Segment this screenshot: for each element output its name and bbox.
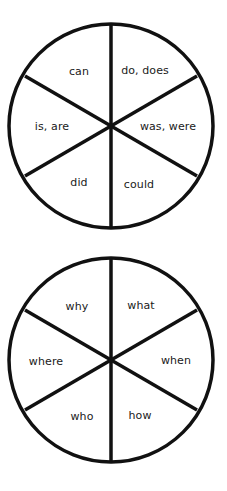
segment-label-top-left: why (66, 300, 89, 313)
wheel-graphic (0, 245, 227, 490)
segment-label-bottom-right: could (124, 178, 154, 191)
segment-label-right: was, were (140, 120, 196, 133)
segment-label-right: when (161, 354, 191, 367)
question-words-wheel: why what when how who where (0, 245, 227, 490)
segment-label-top-right: do, does (121, 64, 169, 77)
segment-label-bottom-left: who (71, 410, 94, 423)
segment-label-left: is, are (35, 120, 69, 133)
segment-label-left: where (29, 355, 63, 368)
segment-label-top-right: what (127, 299, 154, 312)
segment-label-bottom-left: did (70, 176, 87, 189)
segment-label-top-left: can (69, 65, 89, 78)
segment-label-bottom-right: how (129, 409, 152, 422)
verbs-wheel: can do, does was, were could did is, are (0, 0, 227, 245)
